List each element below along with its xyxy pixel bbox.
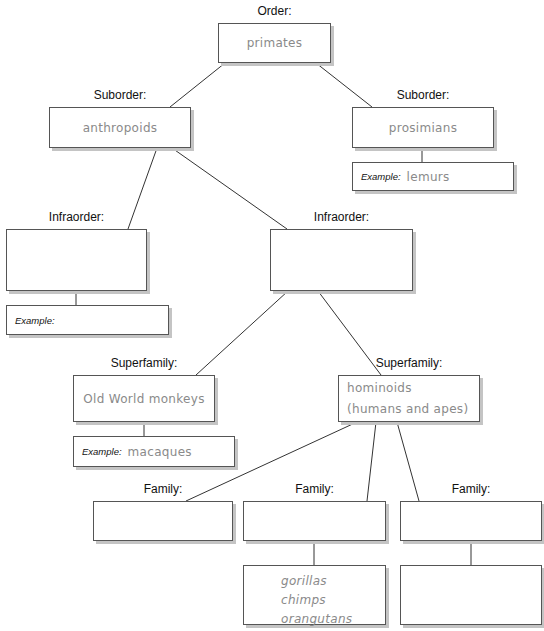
member-orangutans: orangutans [281, 610, 385, 629]
suborder-label-left: Suborder: [49, 88, 191, 102]
family-2-members-box[interactable]: gorillas chimps orangutans [243, 565, 386, 625]
family-3-members-box[interactable] [400, 565, 542, 625]
infraorder-box-right[interactable] [270, 229, 413, 291]
superfamily-value-line2: (humans and apes) [347, 399, 469, 420]
suborder-box-anthropoids[interactable]: anthropoids [49, 107, 191, 148]
family-box-2[interactable] [243, 501, 386, 541]
superfamily-value-line1: hominoids [347, 378, 469, 399]
superfamily-label-right: Superfamily: [338, 356, 480, 370]
example-label: Example: [15, 315, 55, 326]
infraorder-box-left[interactable] [6, 229, 147, 291]
suborder-box-prosimians[interactable]: prosimians [352, 107, 494, 148]
member-gorillas: gorillas [281, 572, 385, 591]
family-box-3[interactable] [400, 501, 542, 541]
prosimians-example-box[interactable]: Example: lemurs [352, 162, 514, 191]
order-box[interactable]: primates [218, 23, 331, 63]
family-label-2: Family: [243, 482, 386, 496]
example-label: Example: [82, 446, 122, 457]
family-label-1: Family: [93, 482, 233, 496]
order-value: primates [247, 36, 303, 50]
example-value: lemurs [407, 170, 450, 184]
suborder-value-left: anthropoids [83, 121, 158, 135]
family-label-3: Family: [400, 482, 542, 496]
example-value: macaques [128, 445, 192, 459]
superfamily-box-hominoids[interactable]: hominoids (humans and apes) [338, 375, 480, 422]
example-label: Example: [361, 171, 401, 182]
owm-example-box[interactable]: Example: macaques [73, 436, 235, 467]
infraorder-label-right: Infraorder: [270, 210, 413, 224]
infraorder-left-example-box[interactable]: Example: [6, 305, 169, 335]
infraorder-label-left: Infraorder: [6, 210, 147, 224]
suborder-label-right: Suborder: [352, 88, 494, 102]
superfamily-value-left: Old World monkeys [83, 392, 204, 406]
order-label: Order: [218, 4, 331, 18]
suborder-value-right: prosimians [389, 121, 457, 135]
member-chimps: chimps [281, 591, 385, 610]
family-box-1[interactable] [93, 501, 233, 541]
superfamily-box-old-world-monkeys[interactable]: Old World monkeys [73, 375, 215, 422]
superfamily-label-left: Superfamily: [73, 356, 215, 370]
